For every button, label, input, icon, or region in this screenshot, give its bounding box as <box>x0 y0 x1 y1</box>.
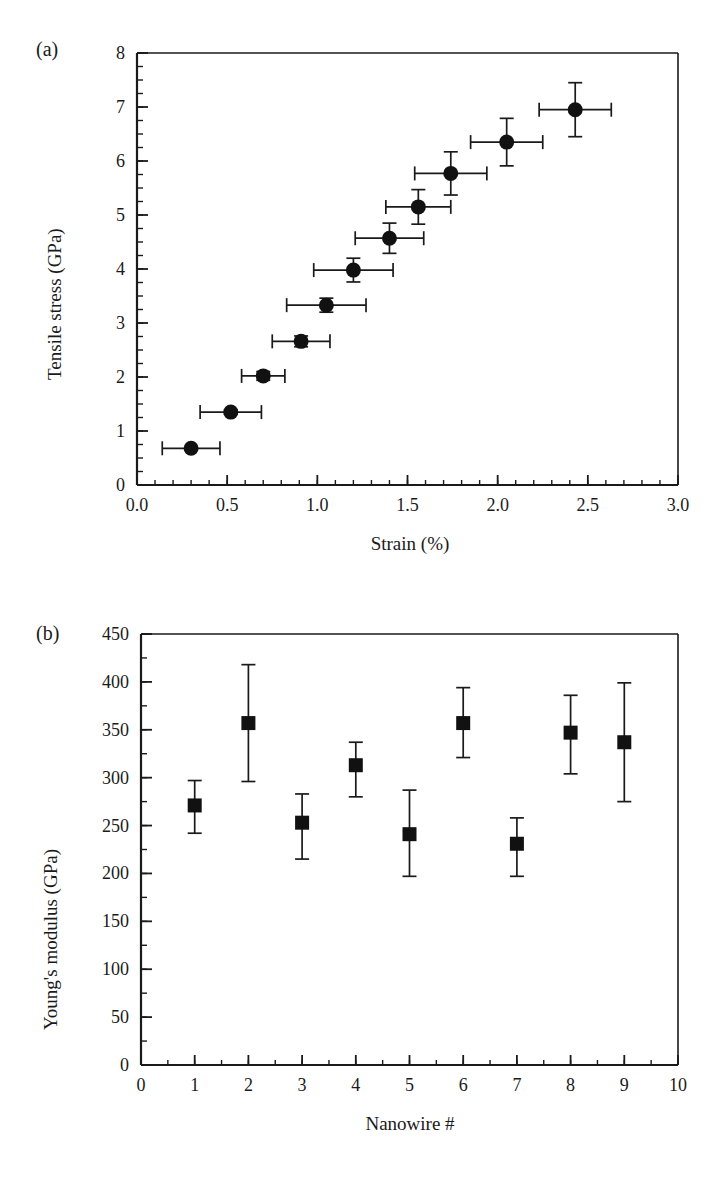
data-point <box>456 688 470 758</box>
marker-circle <box>499 135 514 150</box>
panel-a: (a) 0.00.51.01.52.02.53.0012345678 Strai… <box>0 0 724 580</box>
data-point <box>162 441 220 456</box>
y-tick-label: 1 <box>116 421 125 441</box>
y-tick-label: 8 <box>116 43 125 63</box>
y-tick-label: 150 <box>102 911 129 931</box>
marker-square <box>617 735 631 749</box>
marker-circle <box>223 405 238 420</box>
y-tick-label: 450 <box>102 624 129 644</box>
y-tick-label: 0 <box>116 475 125 495</box>
marker-square <box>349 758 363 772</box>
y-tick-label: 50 <box>111 1007 129 1027</box>
marker-square <box>188 798 202 812</box>
x-tick-label: 2 <box>244 1075 253 1095</box>
marker-circle <box>382 231 397 246</box>
data-point <box>314 258 393 282</box>
marker-square <box>403 827 417 841</box>
x-tick-label: 5 <box>405 1075 414 1095</box>
panel-b-xaxis-title: Nanowire # <box>330 1113 490 1135</box>
marker-square <box>510 837 524 851</box>
y-tick-label: 250 <box>102 816 129 836</box>
y-tick-label: 4 <box>116 259 125 279</box>
data-point <box>272 334 330 349</box>
y-tick-label: 2 <box>116 367 125 387</box>
data-point <box>349 742 363 797</box>
x-tick-label: 0 <box>137 1075 146 1095</box>
marker-circle <box>294 334 309 349</box>
y-tick-label: 0 <box>120 1055 129 1075</box>
marker-square <box>564 726 578 740</box>
data-point <box>510 818 524 876</box>
marker-circle <box>443 166 458 181</box>
x-tick-label: 2.0 <box>486 495 509 515</box>
x-tick-label: 7 <box>512 1075 521 1095</box>
data-point <box>241 665 255 782</box>
x-tick-label: 8 <box>566 1075 575 1095</box>
x-tick-label: 9 <box>620 1075 629 1095</box>
marker-square <box>295 816 309 830</box>
data-point <box>539 83 611 137</box>
data-point <box>200 405 261 420</box>
data-point <box>355 223 424 253</box>
data-point <box>188 781 202 834</box>
marker-circle <box>411 199 426 214</box>
x-tick-label: 1.0 <box>306 495 329 515</box>
x-tick-label: 2.5 <box>577 495 600 515</box>
panel-b-plot: 012345678910050100150200250300350400450 <box>0 600 724 1192</box>
x-tick-label: 1.5 <box>396 495 419 515</box>
marker-circle <box>256 368 271 383</box>
figure-container: (a) 0.00.51.01.52.02.53.0012345678 Strai… <box>0 0 724 1192</box>
plot-group: 0.00.51.01.52.02.53.0012345678 <box>116 43 689 515</box>
marker-circle <box>319 298 334 313</box>
y-tick-label: 200 <box>102 863 129 883</box>
y-tick-label: 400 <box>102 672 129 692</box>
data-point <box>471 118 543 166</box>
panel-a-yaxis-title: Tensile stress (GPa) <box>44 228 66 380</box>
y-tick-label: 7 <box>116 97 125 117</box>
x-tick-label: 10 <box>669 1075 687 1095</box>
data-point <box>415 152 487 195</box>
x-tick-label: 6 <box>459 1075 468 1095</box>
plot-group: 012345678910050100150200250300350400450 <box>102 624 687 1095</box>
panel-b-yaxis-title: Young's modulus (GPa) <box>40 849 62 1030</box>
data-point <box>295 794 309 859</box>
x-tick-label: 0.0 <box>126 495 149 515</box>
y-tick-label: 100 <box>102 959 129 979</box>
marker-circle <box>568 102 583 117</box>
data-point <box>403 790 417 876</box>
data-point <box>617 683 631 802</box>
marker-square <box>456 716 470 730</box>
panel-a-plot: 0.00.51.01.52.02.53.0012345678 <box>0 0 724 580</box>
panel-a-xaxis-title: Strain (%) <box>330 533 490 555</box>
data-point <box>564 695 578 774</box>
x-tick-label: 3.0 <box>667 495 690 515</box>
y-tick-label: 5 <box>116 205 125 225</box>
x-tick-label: 0.5 <box>216 495 239 515</box>
y-tick-label: 6 <box>116 151 125 171</box>
x-tick-label: 3 <box>298 1075 307 1095</box>
data-point <box>242 368 285 383</box>
data-point <box>386 190 451 225</box>
x-tick-label: 4 <box>351 1075 360 1095</box>
x-tick-label: 1 <box>190 1075 199 1095</box>
marker-circle <box>346 263 361 278</box>
y-tick-label: 3 <box>116 313 125 333</box>
marker-circle <box>184 441 199 456</box>
data-point <box>287 298 366 313</box>
marker-square <box>241 716 255 730</box>
y-tick-label: 300 <box>102 768 129 788</box>
y-tick-label: 350 <box>102 720 129 740</box>
panel-b: (b) 012345678910050100150200250300350400… <box>0 600 724 1192</box>
